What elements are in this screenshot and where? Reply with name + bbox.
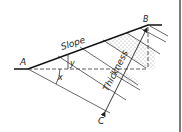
label-c: C (98, 116, 105, 126)
thickness-diagram: A B C Slope x y Thickness (0, 0, 182, 132)
bedding-lines (28, 26, 168, 113)
label-angle-x: x (57, 73, 63, 82)
label-a: A (19, 57, 26, 67)
label-b: B (143, 15, 149, 24)
label-angle-y: y (69, 59, 75, 68)
